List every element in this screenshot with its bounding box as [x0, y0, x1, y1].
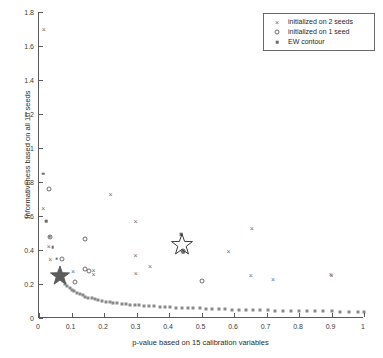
ew-contour-point	[129, 303, 132, 306]
y-tick	[39, 284, 43, 285]
x-tick-label: 0.9	[326, 322, 336, 331]
ew-contour-point	[198, 307, 201, 310]
ew-contour-point	[339, 310, 342, 313]
x-tick-label: 0.8	[293, 322, 303, 331]
hollow-star	[171, 234, 193, 256]
x-tick	[234, 313, 235, 317]
ew-contour-point	[93, 298, 96, 301]
ew-contour-point	[112, 301, 115, 304]
legend-dot-icon	[266, 37, 288, 47]
y-tick-label: 1.6	[12, 42, 34, 51]
data-point-cross: ×	[42, 26, 46, 33]
data-point-cross: ×	[47, 242, 51, 249]
data-point-dot	[42, 172, 45, 175]
x-tick-label: 0.1	[66, 322, 76, 331]
x-tick	[202, 313, 203, 317]
x-tick-label: 0	[36, 322, 40, 331]
ew-contour-point	[313, 310, 316, 313]
legend-cross-icon: ×	[266, 17, 288, 27]
data-point-dot	[51, 246, 54, 249]
ew-contour-point	[305, 310, 308, 313]
x-tick	[332, 313, 333, 317]
ew-contour-point	[108, 301, 111, 304]
data-point-cross: ×	[271, 275, 275, 282]
filled-star	[50, 266, 70, 286]
chart-legend: × initialized on 2 seeds initialized on …	[263, 13, 375, 51]
y-tick	[39, 148, 43, 149]
data-point-circle	[60, 256, 65, 261]
ew-contour-point	[217, 308, 220, 311]
legend-label: EW contour	[288, 37, 325, 47]
y-tick-label: 0.8	[12, 178, 34, 187]
cross-icon: ×	[275, 19, 279, 26]
data-point-dot	[48, 235, 51, 238]
ew-contour-point	[204, 307, 207, 310]
data-point-cross: ×	[133, 217, 137, 224]
ew-contour-point	[133, 304, 136, 307]
ew-contour-point	[224, 308, 227, 311]
data-point-cross: ×	[250, 224, 254, 231]
data-point-cross: ×	[48, 256, 52, 263]
ew-contour-point	[97, 299, 100, 302]
y-tick-label: 0.4	[12, 246, 34, 255]
ew-contour-point	[101, 299, 104, 302]
data-point-cross: ×	[134, 269, 138, 276]
data-point-cross: ×	[148, 263, 152, 270]
x-tick	[39, 313, 40, 317]
x-tick	[299, 313, 300, 317]
y-tick-label: 1.8	[12, 8, 34, 17]
data-point-circle	[83, 237, 88, 242]
legend-entry-2-seeds: × initialized on 2 seeds	[266, 17, 372, 27]
ew-contour-point	[274, 309, 277, 312]
ew-contour-point	[148, 305, 151, 308]
data-point-cross: ×	[92, 271, 96, 278]
ew-contour-point	[169, 306, 172, 309]
ew-contour-point	[245, 308, 248, 311]
ew-contour-point	[348, 310, 351, 313]
x-tick-label: 1	[361, 322, 365, 331]
ew-contour-point	[297, 309, 300, 312]
data-point-cross: ×	[108, 191, 112, 198]
ew-contour-point	[104, 300, 107, 303]
x-tick-label: 0.3	[131, 322, 141, 331]
ew-contour-point	[289, 309, 292, 312]
ew-contour-point	[282, 309, 285, 312]
x-axis-label: p-value based on 15 calibration variable…	[38, 338, 363, 347]
y-tick	[39, 318, 43, 319]
x-tick-label: 0.6	[228, 322, 238, 331]
legend-label: initialized on 1 seed	[288, 27, 350, 37]
y-tick	[39, 216, 43, 217]
y-tick-label: 1.4	[12, 76, 34, 85]
y-tick-label: 0.2	[12, 280, 34, 289]
x-tick	[104, 313, 105, 317]
circle-icon	[275, 30, 280, 35]
ew-contour-point	[266, 309, 269, 312]
scatter-chart-figure: Informativeness based on all 10 seeds p-…	[0, 0, 383, 358]
data-point-cross: ×	[133, 252, 137, 259]
legend-circle-icon	[266, 27, 288, 37]
y-tick-label: 1.2	[12, 110, 34, 119]
data-point-cross: ×	[329, 272, 333, 279]
data-layer: ××××××××××××××××××××	[39, 12, 363, 317]
y-tick	[39, 182, 43, 183]
ew-contour-point	[174, 306, 177, 309]
ew-contour-point	[322, 310, 325, 313]
ew-contour-point	[180, 306, 183, 309]
legend-label: initialized on 2 seeds	[288, 17, 353, 27]
ew-contour-point	[143, 304, 146, 307]
data-point-circle	[47, 186, 52, 191]
ew-contour-point	[153, 305, 156, 308]
data-point-cross: ×	[226, 248, 230, 255]
ew-contour-point	[356, 310, 359, 313]
dot-icon	[276, 41, 279, 44]
ew-contour-point	[237, 308, 240, 311]
ew-contour-point	[192, 307, 195, 310]
data-point-cross: ×	[71, 268, 75, 275]
legend-entry-ew-contour: EW contour	[266, 37, 372, 47]
data-point-circle	[87, 268, 92, 273]
x-tick-label: 0.4	[163, 322, 173, 331]
data-point-dot	[56, 258, 59, 261]
ew-contour-point	[231, 308, 234, 311]
data-point-circle	[199, 278, 204, 283]
ew-contour-point	[211, 307, 214, 310]
